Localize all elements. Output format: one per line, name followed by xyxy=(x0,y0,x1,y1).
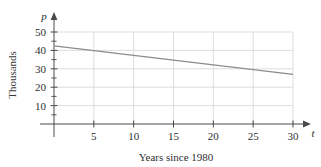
y-tick-label: 20 xyxy=(35,81,47,93)
x-tick-label: 5 xyxy=(91,130,97,142)
x-axis-title: Years since 1980 xyxy=(139,151,214,163)
x-tick-label: 15 xyxy=(168,130,180,142)
y-tick-label: 30 xyxy=(35,63,47,75)
y-axis-variable-label: p xyxy=(40,10,47,22)
y-tick-label: 40 xyxy=(35,44,47,56)
y-tick-label: 50 xyxy=(35,26,47,38)
chart-background xyxy=(0,0,321,167)
y-tick-label: 10 xyxy=(35,100,47,112)
x-tick-label: 20 xyxy=(208,130,220,142)
x-tick-label: 10 xyxy=(128,130,140,142)
x-tick-label: 30 xyxy=(288,130,300,142)
x-tick-label: 25 xyxy=(248,130,260,142)
line-chart: 51015202530 1020304050 p t Thousands Yea… xyxy=(0,0,321,167)
y-axis-title: Thousands xyxy=(6,51,18,99)
chart-container: 51015202530 1020304050 p t Thousands Yea… xyxy=(0,0,321,167)
